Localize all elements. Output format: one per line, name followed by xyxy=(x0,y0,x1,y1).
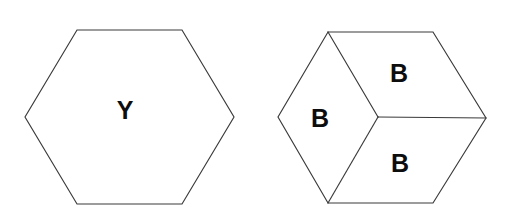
left-hexagon-group: Y xyxy=(25,30,234,204)
figure-canvas: Y B B B xyxy=(0,0,513,216)
right-hexagon-label-b-bottom: B xyxy=(391,149,409,177)
hexagon-figure-svg: Y B B B xyxy=(0,0,513,216)
right-hexagon-group: B B B xyxy=(278,32,486,203)
left-hexagon-label-y: Y xyxy=(117,96,134,124)
right-hexagon-label-b-left: B xyxy=(311,104,329,132)
right-hexagon-label-b-top: B xyxy=(390,59,408,87)
